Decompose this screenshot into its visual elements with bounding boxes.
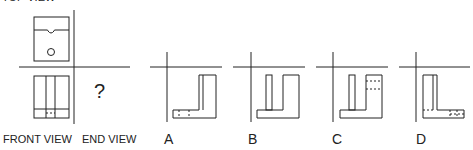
main-axes xyxy=(19,10,130,124)
end-view-label: END VIEW xyxy=(82,133,136,145)
option-d-drawing[interactable] xyxy=(399,52,470,122)
top-view-drawing xyxy=(34,17,69,61)
option-d-label[interactable]: D xyxy=(416,131,426,147)
option-c-label[interactable]: C xyxy=(332,131,342,147)
end-view-question-mark: ? xyxy=(94,80,105,103)
option-a-drawing[interactable] xyxy=(150,52,222,122)
option-c-drawing[interactable] xyxy=(316,52,388,122)
orthographic-projection-diagram xyxy=(0,0,473,150)
front-view-drawing xyxy=(34,76,69,118)
option-b-label[interactable]: B xyxy=(248,131,257,147)
option-a-label[interactable]: A xyxy=(164,131,173,147)
option-b-drawing[interactable] xyxy=(233,52,305,122)
front-view-label: FRONT VIEW xyxy=(3,133,72,145)
